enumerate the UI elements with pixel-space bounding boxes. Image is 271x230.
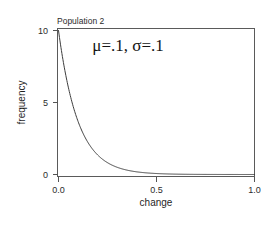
y-tick-label-10: 10 — [38, 26, 48, 36]
panel-title: Population 2 — [57, 16, 105, 26]
y-axis-title: frequency — [16, 81, 27, 125]
y-axis-ticks — [53, 31, 58, 175]
x-axis-ticks — [59, 177, 255, 182]
x-tick-label-0: 0.0 — [52, 185, 65, 195]
y-tick-label-5: 5 — [43, 98, 48, 108]
figure-container: 10 5 0 0.0 0.5 1.0 change frequency Popu… — [0, 0, 271, 230]
x-axis-title: change — [140, 197, 173, 208]
exponential-density-chart: 10 5 0 0.0 0.5 1.0 change frequency Popu… — [0, 0, 271, 230]
x-tick-label-1: 1.0 — [248, 185, 261, 195]
parameter-annotation: μ=.1, σ=.1 — [92, 36, 163, 55]
x-tick-label-0point5: 0.5 — [150, 185, 163, 195]
y-tick-label-0: 0 — [43, 170, 48, 180]
